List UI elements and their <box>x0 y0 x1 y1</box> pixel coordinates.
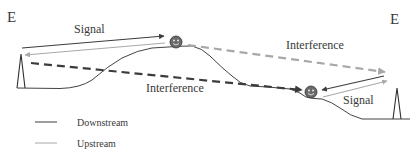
signal-label-right: Signal <box>343 93 374 107</box>
interference-diagram: E E Signal Interference Interference Sig… <box>0 0 418 161</box>
right-station-label: E <box>390 11 399 27</box>
smiley-user-icon <box>170 36 182 48</box>
interference-label-top: Interference <box>286 38 344 52</box>
smiley-user-icon <box>305 86 317 98</box>
interference-label-bottom: Interference <box>146 81 204 95</box>
downstream-signal-arrow-right <box>322 76 384 90</box>
terrain-line <box>17 46 410 119</box>
upstream-signal-arrow-left <box>25 43 165 55</box>
legend-upstream-label: Upstream <box>77 138 116 149</box>
left-station-label: E <box>7 9 16 25</box>
signal-label-left: Signal <box>74 22 105 36</box>
antenna-tower-icon <box>393 88 401 119</box>
downstream-signal-arrow-left <box>22 36 164 48</box>
antenna-tower-icon <box>17 54 25 88</box>
legend-downstream-label: Downstream <box>77 117 128 128</box>
legend: Downstream Upstream <box>35 117 128 149</box>
